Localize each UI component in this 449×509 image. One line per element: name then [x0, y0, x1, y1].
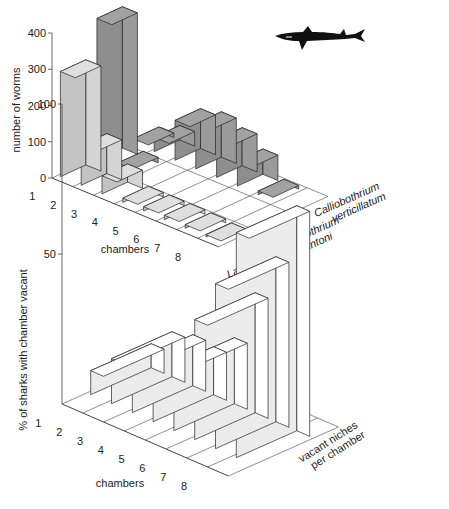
chamber-tick-label: 2	[56, 426, 62, 438]
chamber-tick-label: 1	[29, 190, 35, 202]
chamber-tick-label: 6	[139, 462, 145, 474]
chamber-tick-label: 4	[98, 444, 104, 456]
chamber-tick-label: 3	[77, 435, 83, 447]
y-tick-label: 400	[28, 27, 46, 39]
bar-side-face	[297, 206, 310, 437]
chamber-tick-label: 5	[119, 453, 125, 465]
chamber-tick-label: 8	[175, 251, 181, 263]
x-axis-label: chambers	[101, 243, 150, 255]
chamber-tick-label: 1	[35, 417, 41, 429]
chamber-tick-label: 3	[71, 208, 77, 220]
bar-side-face	[255, 293, 268, 419]
parasite-chamber-chart: 010020030040012345678number of wormscham…	[0, 0, 449, 509]
y-tick-label: 0	[40, 172, 46, 184]
x-axis-label: chambers	[96, 477, 145, 489]
shark-silhouette-icon	[275, 26, 365, 50]
top-3d-bar-chart: 010020030040012345678number of wormscham…	[10, 7, 388, 291]
chamber-tick-label: 7	[154, 242, 160, 254]
bar-side-face	[122, 7, 137, 155]
y-tick-label: 300	[28, 63, 46, 75]
y-tick-label: 50	[44, 248, 56, 260]
y-axis-label: number of worms	[10, 67, 22, 152]
bar-front-face	[60, 60, 86, 177]
y-tick-label: 100	[38, 98, 56, 110]
chamber-tick-label: 2	[50, 199, 56, 211]
chamber-tick-label: 5	[113, 225, 119, 237]
y-axis-label: % of sharks with chamber vacant	[17, 269, 29, 430]
chamber-tick-label: 8	[181, 480, 187, 492]
chamber-tick-label: 4	[92, 216, 98, 228]
chamber-tick-label: 7	[160, 471, 166, 483]
bar-side-face	[86, 60, 101, 171]
bar	[60, 60, 101, 177]
bar-side-face	[276, 257, 289, 428]
y-tick-label: 100	[28, 136, 46, 148]
